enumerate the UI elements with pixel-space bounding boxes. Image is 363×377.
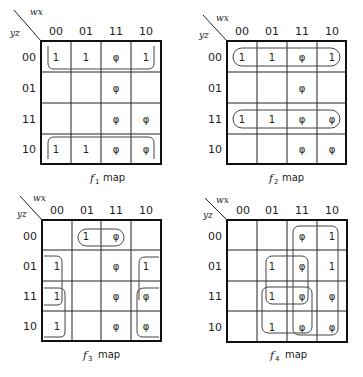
corner-label-yz: yz <box>202 210 213 220</box>
cell: 1 <box>143 261 149 272</box>
cell: φ <box>113 291 120 302</box>
cell: φ <box>329 114 336 125</box>
col-header: 11 <box>109 204 123 217</box>
cell: φ <box>329 322 336 333</box>
row-header: 10 <box>22 143 36 156</box>
cell: φ <box>299 144 306 155</box>
kmap-f1: wx yz 00 01 11 10 00 01 11 10 1 1 φ 1 φ … <box>9 7 161 186</box>
map-caption-sub: 3 <box>88 355 92 363</box>
col-header: 10 <box>325 25 339 38</box>
map-caption-text: map <box>285 349 307 360</box>
row-header: 10 <box>208 321 222 334</box>
cell: 1 <box>239 114 245 125</box>
cell: φ <box>143 114 150 125</box>
cell: 1 <box>54 321 60 332</box>
cell: φ <box>299 291 306 302</box>
cell: 1 <box>269 52 275 63</box>
row-header: 00 <box>22 51 36 64</box>
row-header: 11 <box>22 113 36 126</box>
map-caption-sub: 1 <box>95 178 99 186</box>
kmap-f2: wx yz 00 01 11 10 00 01 11 10 1 1 φ 1 φ … <box>198 13 346 186</box>
cell: φ <box>143 321 150 332</box>
col-header: 10 <box>139 25 153 38</box>
cell: φ <box>299 52 306 63</box>
col-header: 00 <box>49 25 63 38</box>
cell: 1 <box>53 144 59 155</box>
cell: φ <box>299 322 306 333</box>
col-header: 00 <box>235 25 249 38</box>
kmap-figure: wx yz 00 01 11 10 00 01 11 10 1 1 φ 1 φ … <box>0 0 363 377</box>
cell: φ <box>299 231 306 242</box>
cell: 1 <box>83 52 89 63</box>
cell: 1 <box>329 231 335 242</box>
row-header: 10 <box>23 320 37 333</box>
col-header: 11 <box>109 25 123 38</box>
corner-label-yz: yz <box>9 28 20 38</box>
cell: φ <box>299 261 306 272</box>
cell: 1 <box>329 261 335 272</box>
kmap-f3: wx yz 00 01 11 10 00 01 11 10 1 φ 1 φ 1 … <box>16 193 161 363</box>
row-header: 01 <box>208 260 222 273</box>
col-header: 11 <box>295 204 309 217</box>
row-header: 01 <box>23 260 37 273</box>
cell: φ <box>299 114 306 125</box>
map-caption-sub: 4 <box>275 355 280 363</box>
cell: φ <box>143 144 150 155</box>
row-header: 11 <box>23 290 37 303</box>
map-caption-text: map <box>282 172 304 183</box>
cell: 1 <box>269 261 275 272</box>
row-header: 01 <box>22 82 36 95</box>
cell: 1 <box>83 231 89 242</box>
cell: 1 <box>83 144 89 155</box>
row-header: 00 <box>208 230 222 243</box>
cell: φ <box>113 114 120 125</box>
cell: φ <box>113 261 120 272</box>
cell: 1 <box>53 52 59 63</box>
col-header: 01 <box>79 25 93 38</box>
cell: φ <box>113 52 120 63</box>
col-header: 10 <box>139 204 153 217</box>
corner-label-wx: wx <box>216 13 229 23</box>
col-header: 01 <box>265 25 279 38</box>
cell: 1 <box>329 52 335 63</box>
cell: φ <box>113 321 120 332</box>
col-header: 00 <box>236 204 250 217</box>
col-header: 11 <box>295 25 309 38</box>
corner-label-wx: wx <box>216 195 229 205</box>
corner-label-wx: wx <box>33 193 46 203</box>
cell: φ <box>113 231 120 242</box>
map-caption-text: map <box>103 172 125 183</box>
cell: φ <box>299 83 306 94</box>
cell: 1 <box>239 52 245 63</box>
col-header: 01 <box>80 204 94 217</box>
cell: 1 <box>54 291 60 302</box>
cell: 1 <box>143 52 149 63</box>
corner-label-yz: yz <box>198 30 209 40</box>
cell: φ <box>143 291 150 302</box>
row-header: 01 <box>208 82 222 95</box>
cell: 1 <box>269 291 275 302</box>
row-header: 11 <box>208 290 222 303</box>
cell: 1 <box>54 261 60 272</box>
cell: φ <box>329 291 336 302</box>
row-header: 00 <box>23 230 37 243</box>
row-header: 00 <box>208 51 222 64</box>
col-header: 01 <box>265 204 279 217</box>
cell: 1 <box>269 114 275 125</box>
corner-label-yz: yz <box>16 209 27 219</box>
cell: φ <box>113 144 120 155</box>
cell: φ <box>113 83 120 94</box>
row-header: 11 <box>208 113 222 126</box>
cell: φ <box>329 144 336 155</box>
map-caption-text: map <box>98 349 120 360</box>
kmap-f4: wx yz 00 01 11 10 00 01 11 10 φ 1 1 φ 1 … <box>202 195 347 363</box>
col-header: 00 <box>50 204 64 217</box>
map-caption-sub: 2 <box>274 178 278 186</box>
corner-label-wx: wx <box>30 7 43 17</box>
col-header: 10 <box>325 204 339 217</box>
row-header: 10 <box>208 143 222 156</box>
cell: 1 <box>269 322 275 333</box>
